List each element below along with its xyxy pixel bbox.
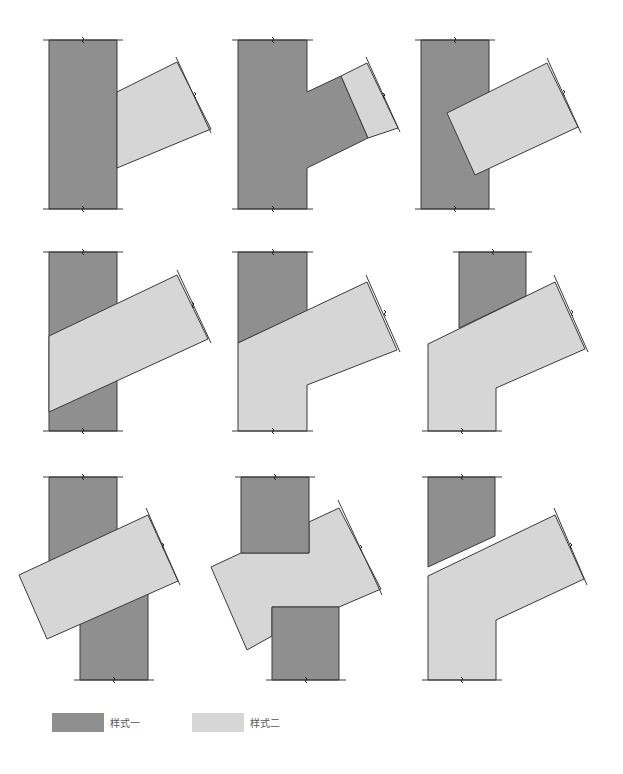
panel-r1c1 xyxy=(43,37,211,212)
legend-item-style2: 样式二 xyxy=(192,713,280,732)
panel-r2c3 xyxy=(422,249,588,434)
shape-style1 xyxy=(238,40,368,209)
legend-label-style2: 样式二 xyxy=(250,715,280,730)
break-mark-icon xyxy=(384,310,386,316)
pipe-junction-diagram xyxy=(0,0,623,774)
legend-swatch-style2 xyxy=(192,713,244,732)
panel-r1c2 xyxy=(232,37,400,212)
panel-r1c3 xyxy=(415,37,581,212)
legend-label-style1: 样式一 xyxy=(110,715,140,730)
panel-r3c1 xyxy=(19,474,180,683)
legend: 样式一 样式二 xyxy=(52,713,332,732)
shape-style2 xyxy=(117,62,211,168)
panel-r2c1 xyxy=(43,249,211,434)
legend-swatch-style1 xyxy=(52,713,104,732)
shape-style1 xyxy=(241,477,309,553)
panel-r3c2 xyxy=(211,474,382,683)
shape-style1 xyxy=(272,607,339,680)
panel-r2c2 xyxy=(232,249,400,434)
shape-style1 xyxy=(49,40,117,209)
panel-r3c3 xyxy=(422,474,587,683)
legend-item-style1: 样式一 xyxy=(52,713,140,732)
